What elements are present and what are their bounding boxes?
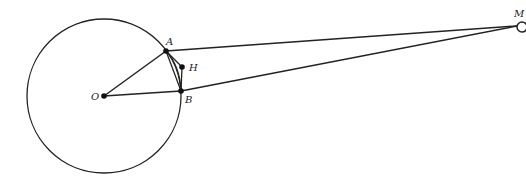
segment-am [166, 26, 517, 51]
segment-ob [104, 91, 181, 96]
label-b: B [184, 94, 192, 105]
label-a: A [165, 36, 173, 47]
segment-bm [181, 26, 517, 91]
segment-hb [181, 67, 182, 91]
segment-ab [166, 51, 181, 91]
label-m: M [513, 8, 525, 19]
point-h [179, 64, 185, 70]
geometry-diagram: O A B H M [0, 0, 526, 181]
point-a [163, 48, 169, 54]
label-h: H [188, 62, 198, 73]
segment-oa [104, 51, 166, 96]
point-o [101, 93, 107, 99]
point-m [517, 22, 526, 32]
point-b [178, 88, 184, 94]
label-o: O [91, 91, 99, 102]
